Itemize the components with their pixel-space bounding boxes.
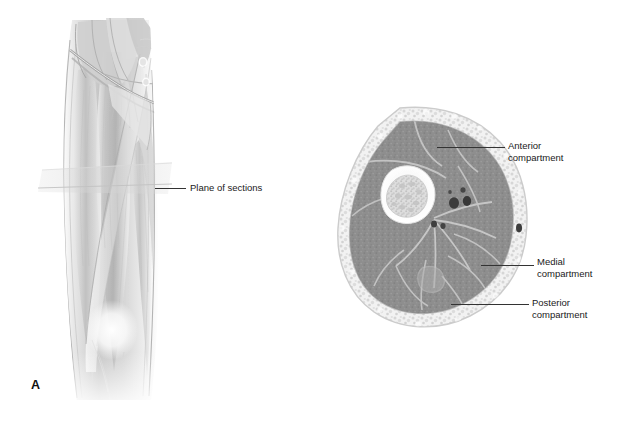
vessel-branch-small <box>460 187 465 193</box>
great-saphenous-vein <box>516 224 522 233</box>
figure-root: A Plane of sections <box>0 0 631 425</box>
posterior-compartment-leader-line <box>451 304 529 305</box>
posterior-compartment-label: Posterior compartment <box>532 297 587 320</box>
panel-a-thigh-illustration: A <box>0 0 320 425</box>
femoral-vein <box>463 196 471 206</box>
thigh-anterior-view-drawing <box>0 0 320 425</box>
plane-of-sections-label: Plane of sections <box>190 182 262 194</box>
panel-b-cross-section: B <box>330 100 540 335</box>
hamstring-fat-island <box>418 266 445 292</box>
anterior-compartment-label: Anterior compartment <box>508 140 563 163</box>
thigh-transverse-section-drawing <box>330 100 540 335</box>
knee-highlight <box>86 300 138 360</box>
femoral-artery <box>449 197 459 209</box>
medial-compartment-leader-line <box>481 265 534 266</box>
anterior-compartment-leader-line <box>437 147 505 148</box>
plane-of-sections-leader-line <box>155 188 186 189</box>
plane-of-sections-slab <box>38 162 172 194</box>
top-fade <box>0 0 320 34</box>
femur-bone <box>381 166 435 224</box>
vessel-branch-tiny <box>448 190 452 194</box>
medial-compartment-label: Medial compartment <box>537 256 592 279</box>
bottom-fade <box>0 352 320 425</box>
panel-a-letter: A <box>31 378 40 392</box>
